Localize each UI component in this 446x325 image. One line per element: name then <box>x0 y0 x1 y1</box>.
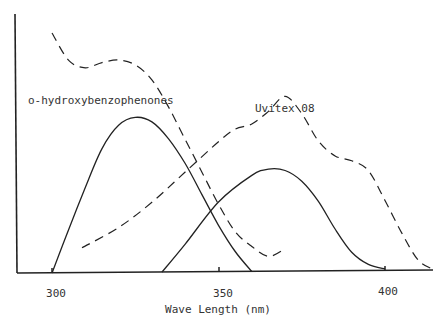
series-label-uvitex-08: Uvitex 08 <box>255 102 315 115</box>
series-dashed-curve-b <box>82 96 435 270</box>
y-axis <box>15 14 17 273</box>
x-tick-label-350: 350 <box>213 287 233 300</box>
series-layer <box>52 33 435 273</box>
x-tick-label-400: 400 <box>378 285 398 298</box>
spectrum-chart <box>0 0 446 325</box>
x-axis <box>17 270 433 273</box>
x-axis-label: Wave Length (nm) <box>165 303 271 316</box>
series-o-hydroxybenzophenones-absorption <box>52 117 252 273</box>
series-uvitex-08-absorption <box>162 169 385 273</box>
series-dashed-curve-a <box>52 33 285 256</box>
series-label-o-hydroxybenzophenones: o-hydroxybenzophenones <box>28 94 174 107</box>
x-tick-label-300: 300 <box>46 287 66 300</box>
